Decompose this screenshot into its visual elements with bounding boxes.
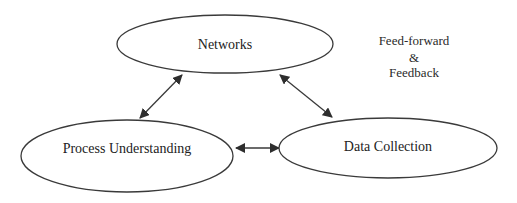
feedback-annotation: Feed-forward & Feedback [379, 33, 450, 80]
edge-networks-data-collection [280, 75, 332, 117]
node-process-understanding: Process Understanding [21, 120, 233, 192]
networks-label: Networks [198, 37, 252, 52]
data-collection-label: Data Collection [344, 139, 432, 154]
node-data-collection: Data Collection [279, 118, 497, 178]
node-networks: Networks [117, 15, 333, 73]
process-understanding-ellipse [21, 120, 233, 192]
edge-networks-process-understanding [140, 75, 182, 118]
process-cycle-diagram: Networks Process Understanding Data Coll… [0, 0, 517, 203]
annotation-line-feedback: Feedback [389, 65, 439, 80]
annotation-line-feed-forward: Feed-forward [379, 33, 450, 48]
process-understanding-label: Process Understanding [63, 141, 192, 156]
annotation-line-ampersand: & [409, 50, 419, 65]
